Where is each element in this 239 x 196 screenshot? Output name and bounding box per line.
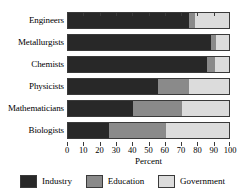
bar-segment-education	[109, 123, 166, 138]
x-tick-top	[132, 12, 133, 16]
bar-row	[67, 34, 230, 51]
x-tick-top	[100, 12, 101, 16]
x-ticklabel: 100	[224, 145, 237, 156]
bar-row	[67, 56, 230, 73]
legend-swatch-education	[86, 175, 103, 188]
x-ticklabel: 10	[79, 145, 88, 156]
x-ticklabel: 90	[209, 145, 218, 156]
legend-swatch-government	[158, 175, 175, 188]
bar-row	[67, 122, 230, 139]
legend-label: Education	[108, 176, 145, 187]
x-tick-top	[165, 12, 166, 16]
category-label-metallurgists: Metallurgists	[0, 37, 64, 47]
legend-swatch-industry	[20, 175, 37, 188]
x-tick-top	[181, 12, 182, 16]
top-axis-ticks	[67, 12, 230, 17]
category-label-engineers: Engineers	[0, 15, 64, 25]
x-ticklabel: 40	[128, 145, 137, 156]
stacked-bar-chart: 0102030405060708090100 Percent IndustryE…	[0, 0, 239, 196]
bar-segment-government	[182, 101, 230, 116]
bar-segment-government	[215, 57, 230, 72]
legend-label: Government	[180, 176, 225, 187]
bar-segment-industry	[68, 79, 158, 94]
x-ticklabel: 0	[65, 145, 69, 156]
x-ticklabel: 60	[161, 145, 170, 156]
bar-segment-industry	[68, 123, 109, 138]
bar-segment-education	[207, 57, 215, 72]
bar-segment-industry	[68, 57, 207, 72]
category-label-biologists: Biologists	[0, 125, 64, 135]
x-ticklabel: 70	[177, 145, 186, 156]
x-tick-top	[197, 12, 198, 16]
bar-row	[67, 100, 230, 117]
x-ticklabel: 20	[95, 145, 104, 156]
x-ticklabel: 30	[112, 145, 121, 156]
bar-segment-government	[189, 79, 230, 94]
legend-item-education: Education	[86, 175, 145, 188]
x-tick-top	[229, 12, 230, 16]
x-ticklabel: 50	[144, 145, 153, 156]
bar-segment-education	[158, 79, 189, 94]
x-axis-title: Percent	[67, 156, 230, 167]
x-tick-top	[83, 12, 84, 16]
category-label-mathematicians: Mathematicians	[0, 103, 64, 113]
x-tick-top	[214, 12, 215, 16]
bar-segment-industry	[68, 35, 211, 50]
bar-segment-government	[166, 123, 230, 138]
legend-item-government: Government	[158, 175, 225, 188]
x-ticklabel: 80	[193, 145, 202, 156]
x-tick-top	[116, 12, 117, 16]
plot-area	[67, 12, 230, 142]
category-label-physicists: Physicists	[0, 81, 64, 91]
bar-row	[67, 78, 230, 95]
category-label-chemists: Chemists	[0, 59, 64, 69]
bar-segment-industry	[68, 101, 133, 116]
x-tick-top	[149, 12, 150, 16]
bar-segment-government	[216, 35, 230, 50]
bar-segment-education	[133, 101, 182, 116]
legend-item-industry: Industry	[20, 175, 72, 188]
chart-legend: IndustryEducationGovernment	[20, 172, 225, 190]
legend-label: Industry	[42, 176, 72, 187]
